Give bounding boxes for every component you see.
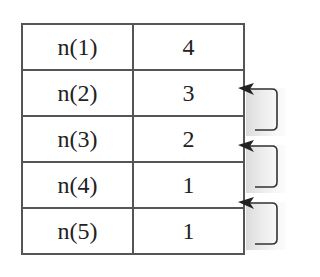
row-label: n(2) xyxy=(22,70,133,116)
row-label: n(5) xyxy=(22,208,133,254)
table-row: n(4) 1 xyxy=(22,162,244,208)
value-table: n(1) 4 n(2) 3 n(3) 2 n(4) 1 n(5) 1 xyxy=(21,23,245,255)
table-row: n(1) 4 xyxy=(22,24,244,70)
table-row: n(2) 3 xyxy=(22,70,244,116)
arrow-shadow xyxy=(246,88,286,136)
arrow-shadow xyxy=(246,145,286,193)
row-label: n(1) xyxy=(22,24,133,70)
row-value: 3 xyxy=(133,70,244,116)
row-label: n(4) xyxy=(22,162,133,208)
row-label: n(3) xyxy=(22,116,133,162)
row-value: 4 xyxy=(133,24,244,70)
table-row: n(5) 1 xyxy=(22,208,244,254)
row-value: 1 xyxy=(133,208,244,254)
row-value: 1 xyxy=(133,162,244,208)
arrow-shadow xyxy=(246,202,286,250)
row-value: 2 xyxy=(133,116,244,162)
table-row: n(3) 2 xyxy=(22,116,244,162)
